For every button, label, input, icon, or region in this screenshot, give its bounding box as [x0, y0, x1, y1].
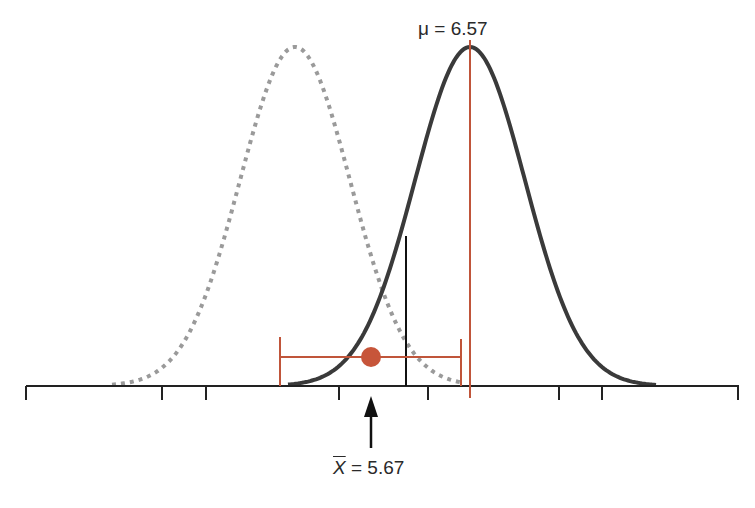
arrow-up-icon [364, 396, 378, 417]
sample-mean-point [361, 347, 381, 367]
true-distribution-curve [288, 47, 656, 385]
null-distribution-curve [112, 47, 462, 385]
mu-label: μ = 6.57 [418, 18, 488, 40]
sampling-distribution-diagram [0, 0, 755, 508]
axis-ticks [26, 386, 738, 400]
xbar-label: X = 5.67 [333, 457, 404, 479]
